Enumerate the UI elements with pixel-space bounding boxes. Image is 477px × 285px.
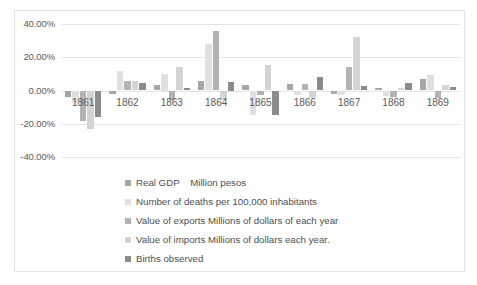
bar-slot	[427, 24, 434, 157]
bar-slot	[420, 24, 427, 157]
bar[interactable]	[117, 71, 124, 90]
bar-slot	[361, 24, 368, 157]
bar-slot	[198, 24, 205, 157]
bar[interactable]	[405, 83, 412, 90]
bar-slot	[287, 24, 294, 157]
bar-slot	[65, 24, 72, 157]
bar-slot	[435, 24, 442, 157]
y-axis-label: 0.00%	[29, 86, 55, 96]
bar-slot	[242, 24, 249, 157]
bar-slot	[228, 24, 235, 157]
bar[interactable]	[398, 88, 405, 90]
bar[interactable]	[361, 86, 368, 91]
bar[interactable]	[242, 85, 249, 91]
bar[interactable]	[287, 84, 294, 91]
bar-group: 1866	[283, 24, 327, 157]
bar[interactable]	[331, 91, 338, 94]
bar-slot	[139, 24, 146, 157]
bar[interactable]	[427, 75, 434, 91]
bar[interactable]	[265, 65, 272, 91]
y-axis-label: 40.00%	[23, 19, 55, 29]
legend-swatch-icon	[125, 199, 131, 205]
bar[interactable]	[317, 77, 324, 90]
x-axis-label: 1869	[416, 98, 460, 108]
bar-slot	[302, 24, 309, 157]
x-axis-label: 1864	[194, 98, 238, 108]
bar-slot	[95, 24, 102, 157]
bar[interactable]	[139, 83, 146, 90]
legend-swatch-icon	[125, 180, 131, 186]
bar[interactable]	[450, 87, 457, 90]
bar[interactable]	[442, 85, 449, 91]
bar-group: 1864	[194, 24, 238, 157]
x-axis-label: 1866	[283, 98, 327, 108]
bar[interactable]	[302, 84, 309, 91]
bar-group: 1869	[416, 24, 460, 157]
bar-group: 1867	[327, 24, 371, 157]
bar[interactable]	[338, 91, 345, 95]
bar-slot	[294, 24, 301, 157]
bar[interactable]	[420, 79, 427, 91]
legend-swatch-icon	[125, 256, 131, 262]
bar[interactable]	[161, 74, 168, 91]
legend-item[interactable]: Value of exports Millions of dollars of …	[125, 211, 338, 230]
legend-item[interactable]: Value of imports Millions of dollars eac…	[125, 230, 338, 249]
bar[interactable]	[205, 44, 212, 91]
bar[interactable]	[109, 91, 116, 94]
bar[interactable]	[176, 67, 183, 90]
legend-item[interactable]: Real GDP Million pesos	[125, 173, 338, 192]
bar-slot	[213, 24, 220, 157]
bar-slot	[80, 24, 87, 157]
bar[interactable]	[375, 88, 382, 90]
bar-slot	[338, 24, 345, 157]
bar-slot	[331, 24, 338, 157]
bar-slot	[72, 24, 79, 157]
bar[interactable]	[257, 91, 264, 95]
bar[interactable]	[154, 85, 161, 91]
bar[interactable]	[65, 91, 72, 98]
bar[interactable]	[124, 81, 131, 91]
legend-item[interactable]: Births observed	[125, 249, 338, 268]
bar[interactable]	[294, 91, 301, 96]
bar-slot	[176, 24, 183, 157]
legend-label: Value of exports Millions of dollars of …	[136, 216, 338, 226]
bar-slot	[265, 24, 272, 157]
bar-slot	[383, 24, 390, 157]
chart-legend: Real GDP Million pesosNumber of deaths p…	[125, 173, 338, 268]
bar-group: 1862	[105, 24, 149, 157]
legend-label: Real GDP Million pesos	[136, 178, 246, 188]
bar-group: 1865	[238, 24, 282, 157]
legend-item[interactable]: Number of deaths per 100,000 inhabitants	[125, 192, 338, 211]
y-axis-label: -20.00%	[20, 119, 55, 129]
bar-slot	[346, 24, 353, 157]
bar[interactable]	[383, 91, 390, 97]
x-axis-label: 1868	[371, 98, 415, 108]
bar[interactable]	[213, 31, 220, 91]
bar-slot	[250, 24, 257, 157]
legend-swatch-icon	[125, 218, 131, 224]
y-axis-label: 20.00%	[23, 53, 55, 63]
bar[interactable]	[132, 81, 139, 90]
bar-slot	[442, 24, 449, 157]
bar-slot	[317, 24, 324, 157]
bar-slot	[154, 24, 161, 157]
legend-label: Number of deaths per 100,000 inhabitants	[136, 197, 317, 207]
bar[interactable]	[198, 81, 205, 90]
plot-area: 40.00%20.00%0.00%-20.00%-40.00% 18611862…	[61, 24, 460, 157]
x-axis-label: 1863	[150, 98, 194, 108]
legend-label: Value of imports Millions of dollars eac…	[136, 235, 330, 245]
bar[interactable]	[184, 88, 191, 90]
bar[interactable]	[346, 67, 353, 90]
bar-slot	[220, 24, 227, 157]
bar-group: 1863	[150, 24, 194, 157]
bar[interactable]	[228, 82, 235, 90]
bar-slot	[161, 24, 168, 157]
bar-slot	[109, 24, 116, 157]
bar[interactable]	[353, 37, 360, 90]
bar-slot	[398, 24, 405, 157]
x-axis-label: 1862	[105, 98, 149, 108]
legend-label: Births observed	[136, 254, 203, 264]
bar-slot	[450, 24, 457, 157]
bar-groups: 186118621863186418651866186718681869	[61, 24, 460, 157]
bar-group: 1861	[61, 24, 105, 157]
